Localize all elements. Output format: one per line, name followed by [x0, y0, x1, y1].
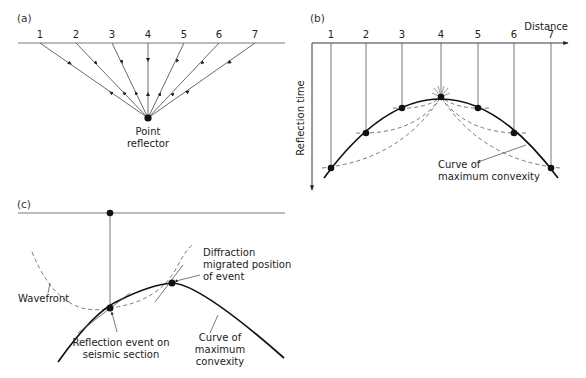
station-3-label: 3: [399, 29, 405, 40]
reflector-label-line1: Point: [136, 126, 161, 137]
curve-c-label-line1: Curve of: [199, 332, 242, 343]
diffraction-label-line3: of event: [203, 271, 244, 282]
reflection-leader: [112, 313, 117, 332]
panel-c: (c) Wavefront Diffraction migrated posit…: [17, 198, 291, 367]
station-1-label: 1: [328, 29, 334, 40]
tangent-reflection: [78, 293, 130, 333]
station-2-label: 2: [73, 29, 79, 40]
station-1-label: 1: [37, 29, 43, 40]
station-2-label: 2: [363, 29, 369, 40]
point-reflector-dot: [144, 114, 151, 121]
reflection-label-line1: Reflection event on: [72, 337, 169, 348]
panel-a: (a) 1 2 3 4 5 6 7: [17, 12, 285, 149]
station-4-label: 4: [145, 29, 151, 40]
station-labels-b: 1 2 3 4 5 6 7: [328, 29, 554, 40]
panel-a-label: (a): [17, 12, 32, 24]
station-7-label: 7: [548, 29, 554, 40]
station-labels: 1 2 3 4 5 6 7: [37, 29, 258, 40]
wavefront-label: Wavefront: [18, 293, 69, 304]
panel-c-label: (c): [17, 198, 31, 210]
source-dot: [107, 210, 114, 217]
wavefront-arcs: [322, 97, 560, 168]
curve-c-label-line2: maximum: [195, 344, 245, 355]
station-5-label: 5: [475, 29, 481, 40]
wavefront-leader: [48, 283, 50, 293]
reflection-label-line2: seismic section: [83, 349, 160, 360]
panel-b: (b) Distance Reflection time 1 2 3 4 5 6…: [295, 12, 568, 190]
y-axis-label: Reflection time: [295, 80, 306, 156]
diffraction-label-line1: Diffraction: [203, 247, 255, 258]
station-6-label: 6: [511, 29, 517, 40]
migrated-position-dot: [169, 280, 176, 287]
reflector-label-line2: reflector: [127, 138, 170, 149]
curve-c-label-line3: convexity: [196, 356, 244, 367]
trace-lines: [331, 43, 551, 168]
diffraction-leader: [176, 275, 200, 281]
diffraction-label-line2: migrated position: [203, 259, 291, 270]
panel-b-label: (b): [310, 12, 325, 24]
curve-label-line1: Curve of: [438, 159, 481, 170]
station-3-label: 3: [109, 29, 115, 40]
curve-c-leader: [210, 315, 218, 333]
reflection-event-dot: [107, 305, 114, 312]
migration-diagram: (a) 1 2 3 4 5 6 7: [0, 0, 586, 378]
station-6-label: 6: [216, 29, 222, 40]
ray-paths: [40, 43, 255, 118]
station-4-label: 4: [438, 29, 444, 40]
x-axis-label: Distance: [524, 21, 568, 32]
curve-label-line2: maximum convexity: [438, 171, 540, 182]
station-5-label: 5: [181, 29, 187, 40]
station-7-label: 7: [252, 29, 258, 40]
